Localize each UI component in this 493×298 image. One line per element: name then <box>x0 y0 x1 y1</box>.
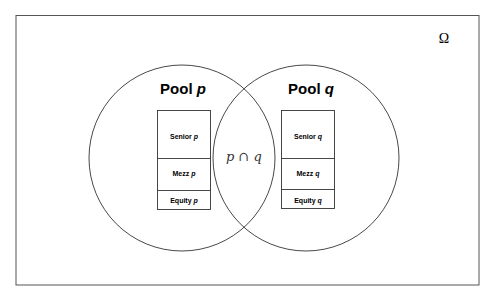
tranche-var: p <box>194 133 198 140</box>
tranche-mezz-q: Mezz q <box>281 170 335 177</box>
tranche-equity-p: Equity p <box>157 197 211 204</box>
tranche-label: Mezz <box>173 170 190 177</box>
pool-q-var: q <box>325 80 334 97</box>
pool-q-name: Pool <box>288 80 321 97</box>
tranche-senior-p: Senior p <box>157 133 211 140</box>
pool-p-tranche-stack <box>158 111 211 210</box>
pool-q-title: Pool q <box>278 80 344 97</box>
tranche-var: p <box>194 197 198 204</box>
tranche-var: q <box>315 170 319 177</box>
tranche-equity-q: Equity q <box>281 197 335 204</box>
universe-label: Ω <box>436 31 452 47</box>
tranche-label: Equity <box>294 197 315 204</box>
tranche-label: Mezz <box>297 170 314 177</box>
tranche-senior-q: Senior q <box>281 133 335 140</box>
tranche-label: Equity <box>170 197 191 204</box>
tranche-label: Senior <box>294 133 316 140</box>
tranche-label: Senior <box>170 133 192 140</box>
tranche-var: q <box>318 133 322 140</box>
tranche-var: p <box>191 170 195 177</box>
pool-p-title: Pool p <box>150 80 216 97</box>
pool-p-name: Pool <box>160 80 193 97</box>
pool-q-tranche-stack <box>282 111 335 209</box>
tranche-var: q <box>318 197 322 204</box>
intersection-label: p ∩ q <box>219 149 269 164</box>
tranche-mezz-p: Mezz p <box>157 170 211 177</box>
pool-p-var: p <box>197 80 206 97</box>
